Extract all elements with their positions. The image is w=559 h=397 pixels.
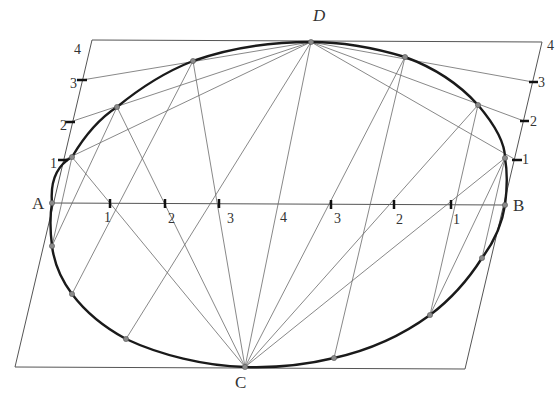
ellipse-construction-diagram: A B C D 1 2 3 4 3 2 1 1 2 3 4 1 2 3 4	[0, 0, 559, 397]
left-edge-label-3: 3	[70, 76, 77, 91]
point-label-c: C	[235, 373, 246, 392]
construction-lines-right-to-d	[311, 42, 533, 160]
right-edge-label-3: 3	[538, 75, 545, 90]
axis-label-left-3: 3	[227, 211, 234, 226]
point-label-d: D	[312, 6, 326, 25]
construction-lines-c-to-upper	[72, 57, 505, 367]
right-edge-label-4: 4	[547, 38, 554, 53]
axis-label-right-3: 3	[334, 211, 341, 226]
left-edge-label-2: 2	[60, 118, 67, 133]
axis-label-center-4: 4	[280, 210, 287, 225]
axis-label-left-2: 2	[168, 211, 175, 226]
axis-label-left-1: 1	[104, 210, 111, 225]
point-label-a: A	[32, 194, 45, 213]
left-edge-label-4: 4	[74, 42, 81, 57]
axis-label-right-2: 2	[396, 212, 403, 227]
point-label-b: B	[513, 196, 524, 215]
right-edge-label-2: 2	[530, 114, 537, 129]
right-edge-label-1: 1	[522, 152, 529, 167]
left-edge-label-1: 1	[50, 156, 57, 171]
axis-label-right-1: 1	[453, 212, 460, 227]
